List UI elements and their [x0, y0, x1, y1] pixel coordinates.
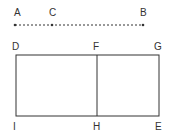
point-b-marker	[142, 24, 145, 27]
label-c: C	[49, 7, 56, 18]
label-e: E	[155, 121, 162, 132]
label-f: F	[93, 41, 99, 52]
label-a: A	[14, 7, 21, 18]
point-a-marker	[14, 24, 17, 27]
label-g: G	[154, 41, 162, 52]
label-h: H	[93, 121, 100, 132]
rectangle-dgei	[16, 55, 159, 116]
label-i: I	[13, 121, 16, 132]
label-d: D	[12, 41, 19, 52]
geometry-diagram: A C B D F G I H E	[0, 0, 171, 139]
point-c-marker	[51, 24, 54, 27]
label-b: B	[140, 7, 147, 18]
